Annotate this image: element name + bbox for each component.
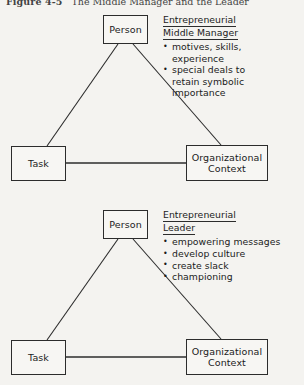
node-task-label: Task xyxy=(28,352,49,364)
annotation-bullet-list: empowering messages develop culture crea… xyxy=(163,236,304,283)
node-person-label: Person xyxy=(109,24,142,36)
diagram-middle-manager: Person Task OrganizationalContext Entrep… xyxy=(0,10,304,188)
figure-caption: Figure 4-5The Middle Manager and the Lea… xyxy=(6,0,298,8)
list-item: empowering messages xyxy=(163,236,304,247)
list-item: special deals toretain symbolicimportanc… xyxy=(163,64,301,98)
annotation-middle-manager: Entrepreneurial Middle Manager motives, … xyxy=(163,14,301,99)
figure-title: The Middle Manager and the Leader xyxy=(71,0,248,7)
diagram-leader: Person Task OrganizationalContext Entrep… xyxy=(0,192,304,385)
annotation-heading-line2: Leader xyxy=(163,222,195,235)
list-item: create slack xyxy=(163,260,304,271)
node-person: Person xyxy=(103,15,148,44)
figure-page: Figure 4-5The Middle Manager and the Lea… xyxy=(0,0,304,385)
node-task-label: Task xyxy=(28,158,49,170)
node-task: Task xyxy=(11,146,66,181)
annotation-heading-line1: Entrepreneurial xyxy=(163,209,236,222)
annotation-heading-line2: Middle Manager xyxy=(163,27,238,40)
node-context-label: OrganizationalContext xyxy=(192,346,263,369)
figure-number: Figure 4-5 xyxy=(6,0,62,7)
node-task: Task xyxy=(11,340,66,375)
node-person: Person xyxy=(103,210,148,239)
node-context-label: OrganizationalContext xyxy=(192,152,263,175)
list-item: motives, skills,experience xyxy=(163,41,301,64)
node-organizational-context: OrganizationalContext xyxy=(186,339,268,375)
node-organizational-context: OrganizationalContext xyxy=(186,145,268,181)
annotation-leader: Entrepreneurial Leader empowering messag… xyxy=(163,209,304,283)
list-item: develop culture xyxy=(163,248,304,259)
annotation-heading-line1: Entrepreneurial xyxy=(163,14,236,27)
list-item: championing xyxy=(163,271,304,282)
node-person-label: Person xyxy=(109,219,142,231)
annotation-bullet-list: motives, skills,experience special deals… xyxy=(163,41,301,98)
